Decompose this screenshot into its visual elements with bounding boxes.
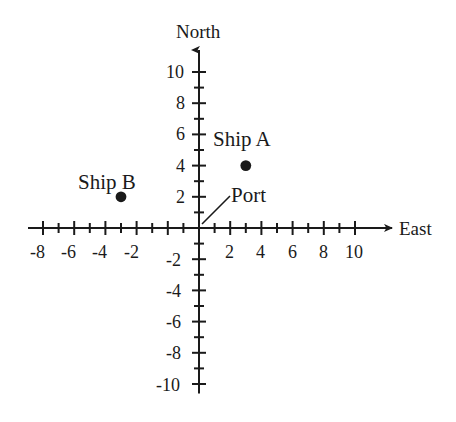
label-ship-b: Ship B: [78, 172, 136, 193]
x-tick-label-4: 4: [256, 243, 265, 261]
y-axis-title: North: [176, 22, 220, 41]
coordinate-plane-figure: North East 10 8 6 4 2 -2 -4 -6 -8 -10 -8…: [0, 0, 456, 422]
y-tick-label-10: 10: [166, 63, 184, 81]
x-tick-label-6: 6: [288, 243, 297, 261]
x-tick-label-2: 2: [225, 243, 234, 261]
plot-area: [0, 0, 456, 422]
y-tick-label-6: 6: [176, 125, 185, 143]
x-tick-label-neg-8: -8: [30, 243, 45, 261]
x-axis-title: East: [399, 219, 432, 238]
y-tick-label-neg-2: -2: [166, 251, 181, 269]
y-tick-label-4: 4: [176, 157, 185, 175]
y-tick-label-neg-4: -4: [166, 282, 181, 300]
y-tick-label-neg-8: -8: [166, 344, 181, 362]
y-tick-label-8: 8: [176, 94, 185, 112]
x-tick-label-8: 8: [319, 243, 328, 261]
point-ship-a: [240, 160, 251, 171]
y-tick-label-neg-10: -10: [156, 376, 180, 394]
x-tick-label-10: 10: [345, 243, 363, 261]
x-tick-label-neg-2: -2: [124, 243, 139, 261]
y-tick-label-2: 2: [176, 188, 185, 206]
x-tick-label-neg-4: -4: [92, 243, 107, 261]
port-leader-line: [202, 196, 230, 224]
x-tick-label-neg-6: -6: [61, 243, 76, 261]
label-port: Port: [231, 185, 266, 206]
y-tick-label-neg-6: -6: [166, 313, 181, 331]
label-ship-a: Ship A: [213, 129, 271, 150]
